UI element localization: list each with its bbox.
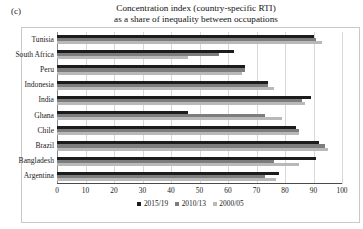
category-label-ghana: Ghana bbox=[34, 112, 54, 120]
bar-tunisia-2000-05 bbox=[57, 41, 322, 44]
value-axis-ticks: 0102030405060708090100 bbox=[57, 186, 342, 198]
category-row: Brazil bbox=[57, 138, 342, 153]
x-tick-label-80: 80 bbox=[281, 186, 288, 195]
category-row: Peru bbox=[57, 62, 342, 77]
category-label-chile: Chile bbox=[38, 127, 54, 135]
category-row: Bangladesh bbox=[57, 154, 342, 169]
bar-peru-2000-05 bbox=[57, 72, 242, 75]
plot-frame: TunisiaSouth AfricaPeruIndonesiaIndiaGha… bbox=[21, 27, 360, 223]
category-label-tunisia: Tunisia bbox=[31, 36, 54, 44]
legend-swatch-icon bbox=[175, 202, 179, 206]
legend-item-2010-13[interactable]: 2010/13 bbox=[175, 200, 206, 208]
x-tick-label-70: 70 bbox=[253, 186, 260, 195]
category-row: Chile bbox=[57, 123, 342, 138]
chart-title: Concentration index (country-specific RT… bbox=[46, 3, 346, 25]
bar-south-africa-2000-05 bbox=[57, 56, 188, 59]
category-row: Ghana bbox=[57, 108, 342, 123]
legend-item-2015-19[interactable]: 2015/19 bbox=[137, 200, 168, 208]
category-label-india: India bbox=[38, 96, 54, 104]
x-tick-label-60: 60 bbox=[224, 186, 231, 195]
x-tick-label-10: 10 bbox=[82, 186, 89, 195]
x-tick-label-30: 30 bbox=[139, 186, 146, 195]
bar-brazil-2000-05 bbox=[57, 148, 328, 151]
x-tick-label-40: 40 bbox=[167, 186, 174, 195]
x-tick-label-100: 100 bbox=[336, 186, 347, 195]
category-row: India bbox=[57, 93, 342, 108]
legend-label: 2015/19 bbox=[144, 200, 168, 208]
category-label-brazil: Brazil bbox=[35, 142, 54, 150]
category-label-bangladesh: Bangladesh bbox=[19, 157, 54, 165]
plot-inner: TunisiaSouth AfricaPeruIndonesiaIndiaGha… bbox=[22, 28, 359, 222]
category-row: South Africa bbox=[57, 47, 342, 62]
chart-legend: 2015/192010/132000/05 bbox=[22, 200, 359, 208]
category-label-indonesia: Indonesia bbox=[24, 81, 54, 89]
bar-chile-2000-05 bbox=[57, 132, 299, 135]
legend-label: 2010/13 bbox=[182, 200, 206, 208]
category-label-argentina: Argentina bbox=[24, 172, 54, 180]
bar-india-2000-05 bbox=[57, 102, 305, 105]
legend-swatch-icon bbox=[213, 202, 217, 206]
x-tick-label-0: 0 bbox=[55, 186, 59, 195]
x-tick-label-50: 50 bbox=[196, 186, 203, 195]
legend-label: 2000/05 bbox=[219, 200, 243, 208]
figure-panel-c: (c) Concentration index (country-specifi… bbox=[0, 0, 363, 229]
bars-area: TunisiaSouth AfricaPeruIndonesiaIndiaGha… bbox=[57, 32, 342, 184]
value-axis-line bbox=[57, 183, 342, 184]
bar-bangladesh-2000-05 bbox=[57, 163, 299, 166]
chart-title-line-2: as a share of inequality between occupat… bbox=[46, 14, 346, 25]
legend-swatch-icon bbox=[137, 202, 141, 206]
legend-item-2000-05[interactable]: 2000/05 bbox=[213, 200, 244, 208]
bar-indonesia-2000-05 bbox=[57, 87, 274, 90]
gridline-100 bbox=[342, 32, 343, 184]
category-row: Argentina bbox=[57, 169, 342, 184]
x-tick-label-20: 20 bbox=[110, 186, 117, 195]
chart-title-line-1: Concentration index (country-specific RT… bbox=[46, 3, 346, 14]
panel-label: (c) bbox=[11, 6, 21, 17]
category-label-peru: Peru bbox=[40, 66, 54, 74]
category-label-south-africa: South Africa bbox=[15, 51, 54, 59]
bar-ghana-2000-05 bbox=[57, 117, 282, 120]
category-row: Indonesia bbox=[57, 78, 342, 93]
x-tick-label-90: 90 bbox=[310, 186, 317, 195]
bar-argentina-2000-05 bbox=[57, 178, 276, 181]
category-row: Tunisia bbox=[57, 32, 342, 47]
category-rows: TunisiaSouth AfricaPeruIndonesiaIndiaGha… bbox=[57, 32, 342, 184]
